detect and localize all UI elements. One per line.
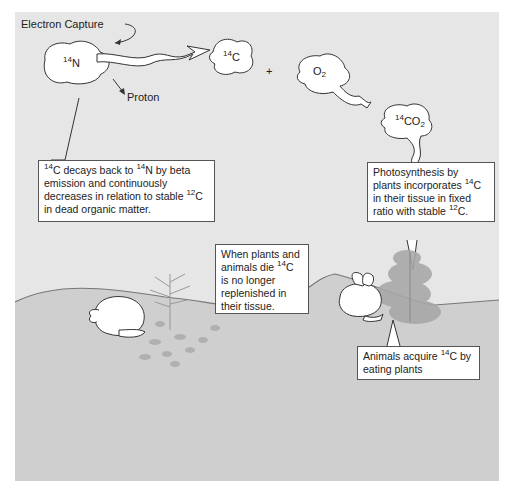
photosynthesis-callout: Photosynthesis by plants incorporates 14… [367,162,495,222]
n14-label: 14N [63,58,80,69]
plus-sign: + [266,66,272,77]
o2-cloud [297,54,371,108]
proton-label: Proton [127,92,159,103]
decay-arrow [97,46,210,66]
decay-callout: 14C decays back to 14N by beta emission … [38,160,215,222]
death-callout: When plants and animals die 14C is no lo… [215,244,309,314]
electron-capture-arrow [115,24,135,43]
co2-label: 14CO2 [395,116,425,127]
animals-callout: Animals acquire 14C by eating plants [357,346,480,380]
electron-capture-label: Electron Capture [21,19,104,30]
decay-pointer [51,98,79,160]
c14-label: 14C [223,52,240,63]
diagram-panel: Electron Capture Proton + 14N 14C O2 14C… [15,12,499,481]
o2-label: O2 [313,66,326,77]
